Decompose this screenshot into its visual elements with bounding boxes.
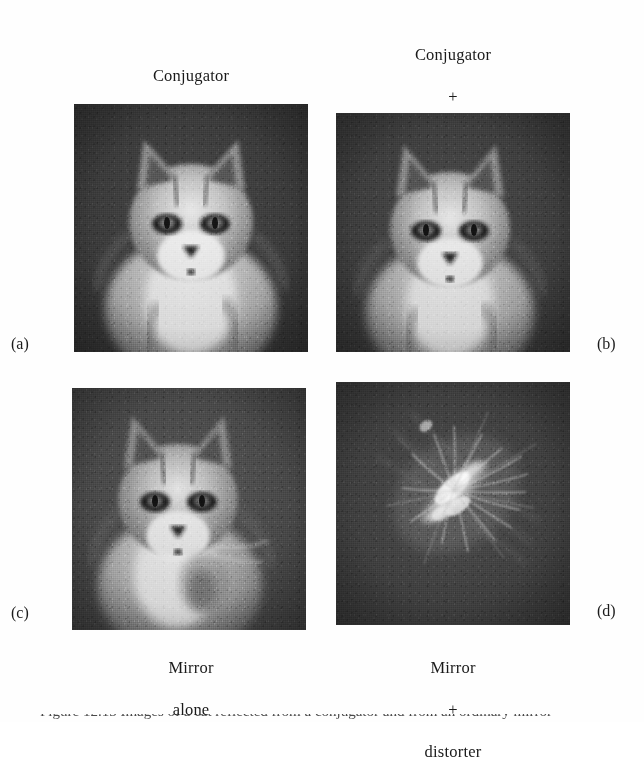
- caption-line-1: Conjugator: [74, 65, 308, 86]
- cat-photo-c: [72, 388, 306, 630]
- panel-letter-c: (c): [11, 605, 29, 621]
- panel-d-image: [336, 382, 570, 625]
- caption-line-1: Mirror: [74, 657, 308, 678]
- distorted-speckle-pattern: [336, 382, 570, 625]
- caption-line-1: Conjugator: [336, 44, 570, 65]
- panel-c-image: [72, 388, 306, 630]
- figure-caption-text: Figure 12.13 Images of a cat reflected f…: [40, 714, 604, 720]
- cat-photo-a: [74, 104, 308, 352]
- panel-letter-d: (d): [597, 603, 616, 619]
- caption-mirror-plus-distorter: Mirror + distorter: [336, 636, 570, 761]
- panel-letter-b: (b): [597, 336, 616, 352]
- panel-b-image: [336, 113, 570, 352]
- speckle-photo-d: [336, 382, 570, 625]
- figure-caption-clipped: Figure 12.13 Images of a cat reflected f…: [0, 714, 644, 722]
- caption-line-3: distorter: [336, 741, 570, 761]
- caption-mirror-alone: Mirror alone: [74, 636, 308, 741]
- cat-photo-b: [336, 113, 570, 352]
- caption-line-1: Mirror: [336, 657, 570, 678]
- panel-letter-a: (a): [11, 336, 29, 352]
- panel-a-image: [74, 104, 308, 352]
- caption-line-2: +: [336, 86, 570, 107]
